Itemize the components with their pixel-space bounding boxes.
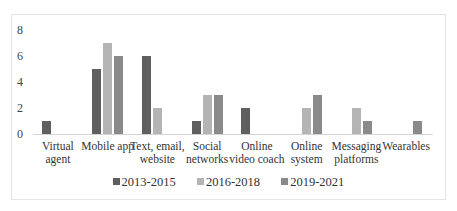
- legend-item: 2016-2018: [197, 175, 260, 190]
- x-tick-label: Messagingplatforms: [328, 140, 384, 166]
- x-tick-label: Onlinesystem: [279, 140, 335, 166]
- x-axis-line: [33, 134, 433, 135]
- bar: [42, 121, 51, 134]
- bar: [352, 108, 361, 134]
- bar: [363, 121, 372, 134]
- bar: [103, 43, 112, 134]
- bar: [313, 95, 322, 134]
- legend-swatch-icon: [281, 178, 288, 185]
- y-tick-label: 2: [17, 102, 23, 114]
- legend-item: 2019-2021: [281, 175, 344, 190]
- chart-frame: [11, 14, 446, 200]
- bar: [142, 56, 151, 134]
- bar: [192, 121, 201, 134]
- legend-swatch-icon: [113, 178, 120, 185]
- bar: [92, 69, 101, 134]
- x-tick-label: Socialnetworks: [179, 140, 235, 166]
- bar: [203, 95, 212, 134]
- y-tick-label: 8: [17, 24, 23, 36]
- legend-swatch-icon: [197, 178, 204, 185]
- y-tick-label: 0: [17, 128, 23, 140]
- bar: [153, 108, 162, 134]
- bar: [114, 56, 123, 134]
- bar: [214, 95, 223, 134]
- y-tick-label: 6: [17, 50, 23, 62]
- bar: [302, 108, 311, 134]
- bar: [241, 108, 250, 134]
- x-tick-label: Onlinevideo coach: [229, 140, 285, 166]
- legend-item: 2013-2015: [113, 175, 176, 190]
- legend: 2013-2015 2016-2018 2019-2021: [0, 175, 457, 190]
- y-tick-label: 4: [17, 76, 23, 88]
- x-tick-label: Wearables: [378, 140, 434, 166]
- bar: [413, 121, 422, 134]
